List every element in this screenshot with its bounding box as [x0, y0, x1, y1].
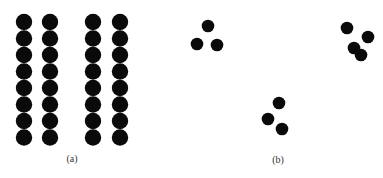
panel-b-label: (b) — [272, 154, 284, 166]
grid-dot — [16, 129, 32, 145]
panel-b-clusters — [191, 20, 375, 136]
cluster-top-right — [341, 22, 375, 62]
cluster-dot — [273, 97, 286, 110]
grid-dot — [112, 14, 128, 30]
grid-dot — [112, 47, 128, 63]
grid-dot — [16, 30, 32, 46]
grid-dot — [16, 96, 32, 112]
grid-dot — [85, 47, 101, 63]
grid-dot — [42, 80, 58, 96]
grid-dot — [112, 30, 128, 46]
grid-dot — [85, 113, 101, 129]
grid-dot — [85, 14, 101, 30]
grid-dot — [16, 47, 32, 63]
grid-dot — [85, 30, 101, 46]
cluster-dot — [211, 39, 224, 52]
grid-dot — [42, 129, 58, 145]
panel-a-grid — [16, 14, 128, 146]
grid-dot — [16, 80, 32, 96]
grid-dot — [16, 113, 32, 129]
cluster-dot — [262, 113, 275, 126]
grid-dot — [112, 129, 128, 145]
grid-dot — [85, 96, 101, 112]
grid-dot — [42, 47, 58, 63]
grid-dot — [85, 63, 101, 79]
grid-dot — [42, 96, 58, 112]
grid-dot — [112, 63, 128, 79]
cluster-dot — [276, 123, 289, 136]
grid-dot — [16, 14, 32, 30]
grid-dot — [42, 63, 58, 79]
figure-canvas: (a) (b) — [0, 0, 383, 178]
grid-dot — [112, 80, 128, 96]
grid-dot — [42, 14, 58, 30]
cluster-dot — [202, 20, 215, 33]
grid-dot — [16, 63, 32, 79]
cluster-top-left — [191, 20, 224, 52]
grid-dot — [85, 129, 101, 145]
grid-dot — [112, 113, 128, 129]
grid-dot — [42, 113, 58, 129]
cluster-dot — [341, 22, 354, 35]
cluster-bottom — [262, 97, 289, 136]
grid-dot — [42, 30, 58, 46]
cluster-dot — [362, 31, 375, 44]
grid-dot — [112, 96, 128, 112]
panel-a-label: (a) — [66, 153, 77, 165]
cluster-dot — [355, 49, 368, 62]
cluster-dot — [191, 38, 204, 51]
grid-dot — [85, 80, 101, 96]
